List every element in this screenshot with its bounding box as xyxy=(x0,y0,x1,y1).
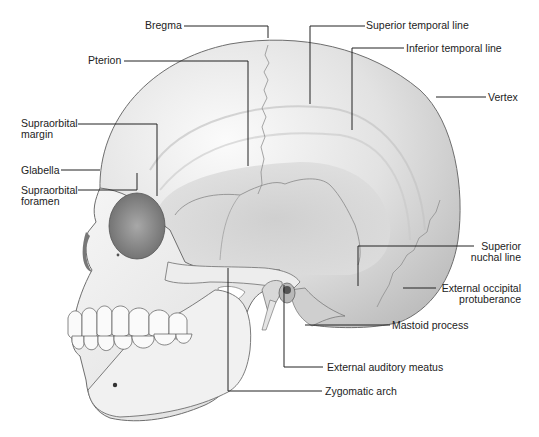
label-line-2: foramen xyxy=(21,196,78,207)
label-line-2: protuberance xyxy=(421,294,521,305)
label-line-2: nuchal line xyxy=(446,252,521,263)
label-external-occipital-protuberance: External occipital protuberance xyxy=(421,283,521,305)
label-zygomatic-arch: Zygomatic arch xyxy=(325,386,397,397)
label-external-auditory-meatus: External auditory meatus xyxy=(327,362,443,373)
label-vertex: Vertex xyxy=(488,92,518,103)
label-line-2: margin xyxy=(21,129,78,140)
label-bregma: Bregma xyxy=(145,20,182,31)
skull-illustration xyxy=(0,0,539,437)
label-superior-temporal-line: Superior temporal line xyxy=(366,20,469,31)
label-inferior-temporal-line: Inferior temporal line xyxy=(406,43,502,54)
label-supraorbital-foramen: Supraorbital foramen xyxy=(21,185,78,207)
label-supraorbital-margin: Supraorbital margin xyxy=(21,118,78,140)
label-mastoid-process: Mastoid process xyxy=(392,320,468,331)
orbit xyxy=(109,193,165,259)
leader-bregma xyxy=(184,26,268,38)
skull-diagram: Bregma Pterion Superior temporal line In… xyxy=(0,0,539,437)
label-superior-nuchal-line: Superior nuchal line xyxy=(446,241,521,263)
label-glabella: Glabella xyxy=(21,165,60,176)
label-pterion: Pterion xyxy=(88,55,121,66)
